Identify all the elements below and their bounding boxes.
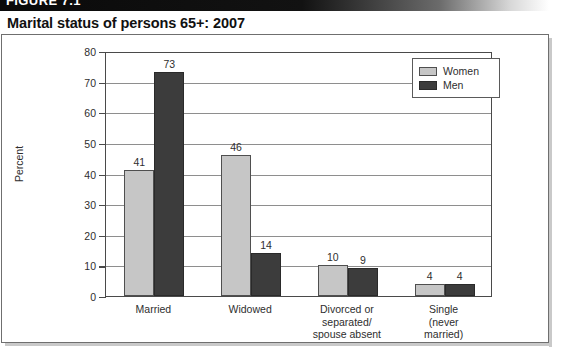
gridline-80 [106, 52, 491, 53]
y-axis-tick-labels: 01020304050607080 [64, 0, 96, 349]
y-tick-70 [99, 83, 106, 84]
figure-frame-shadow-right [549, 38, 552, 347]
bar-women-3 [415, 284, 445, 296]
figure-page: FIGURE 7.1 Marital status of persons 65+… [0, 0, 561, 349]
bar-women-1 [221, 155, 251, 296]
bar-value-label: 41 [124, 157, 154, 168]
y-tick-80 [99, 52, 106, 53]
bar-value-label: 9 [348, 255, 378, 266]
y-tick-10 [99, 266, 106, 267]
y-tick-60 [99, 113, 106, 114]
y-tick-label-60: 60 [68, 108, 96, 119]
y-tick-20 [99, 236, 106, 237]
y-tick-label-0: 0 [68, 292, 96, 303]
plot-area: 4173461410944 WomenMen [105, 52, 492, 297]
bar-value-label: 4 [415, 271, 445, 282]
y-tick-label-70: 70 [68, 78, 96, 89]
chart-legend: WomenMen [412, 58, 500, 98]
bar-men-2 [348, 268, 378, 296]
y-tick-label-80: 80 [68, 47, 96, 58]
legend-item-men: Men [419, 78, 493, 92]
y-tick-label-50: 50 [68, 139, 96, 150]
legend-label: Women [443, 66, 479, 77]
legend-swatch-icon-men [419, 81, 437, 90]
bar-women-2 [318, 265, 348, 296]
bar-men-1 [251, 253, 281, 296]
legend-label: Men [443, 80, 463, 91]
y-tick-label-10: 10 [68, 261, 96, 272]
bar-value-label: 73 [154, 59, 184, 70]
y-tick-0 [99, 297, 106, 298]
bar-men-3 [445, 284, 475, 296]
y-tick-40 [99, 175, 106, 176]
legend-item-women: Women [419, 64, 493, 78]
bar-value-label: 10 [318, 252, 348, 263]
x-axis-label-3: Single (never married) [384, 303, 504, 341]
y-tick-label-20: 20 [68, 231, 96, 242]
y-tick-50 [99, 144, 106, 145]
y-tick-label-30: 30 [68, 200, 96, 211]
page-title: Marital status of persons 65+: 2007 [7, 15, 245, 31]
bar-value-label: 14 [251, 240, 281, 251]
bar-men-0 [154, 72, 184, 296]
y-tick-label-40: 40 [68, 170, 96, 181]
legend-swatch-icon-women [419, 67, 437, 76]
y-tick-30 [99, 205, 106, 206]
bar-value-label: 4 [445, 271, 475, 282]
y-axis-title: Percent [13, 124, 25, 204]
bar-women-0 [124, 170, 154, 296]
bar-value-label: 46 [221, 142, 251, 153]
